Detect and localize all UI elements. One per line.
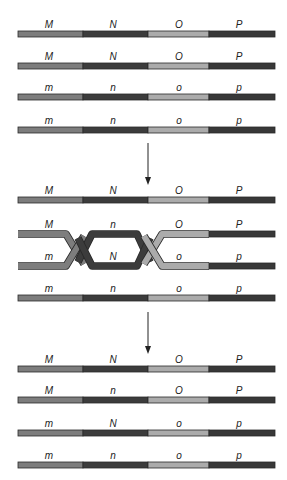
allele-label: m <box>45 283 53 294</box>
allele-label: O <box>175 185 183 196</box>
allele-label: n <box>110 82 116 93</box>
chromosome: MNOP <box>18 51 275 69</box>
segment-m <box>18 462 83 468</box>
stage-before: MNOPMNOPmnopmnop <box>18 19 275 133</box>
segment-M <box>18 366 83 372</box>
segment-M <box>18 31 83 37</box>
allele-label: N <box>109 418 117 429</box>
segment-M <box>18 63 83 69</box>
allele-label: p <box>235 450 242 461</box>
allele-label: M <box>45 185 54 196</box>
allele-label: n <box>110 385 116 396</box>
allele-label: P <box>236 219 243 230</box>
segment-P <box>209 197 275 203</box>
segment-n <box>83 94 148 100</box>
allele-label: p <box>235 251 242 262</box>
allele-label: o <box>176 450 182 461</box>
segment-N <box>83 366 148 372</box>
allele-label: n <box>110 115 116 126</box>
allele-label: m <box>45 251 53 262</box>
chromosome: MNOP <box>18 354 275 372</box>
allele-label: P <box>236 385 243 396</box>
segment-o <box>148 462 209 468</box>
segment-p <box>209 263 275 269</box>
segment-m <box>18 94 83 100</box>
segment-P <box>209 31 275 37</box>
chromosome: MnOP <box>45 219 243 230</box>
allele-label: m <box>45 82 53 93</box>
allele-label: p <box>235 82 242 93</box>
allele-label: o <box>176 82 182 93</box>
segment-o <box>148 94 209 100</box>
segment-P <box>209 366 275 372</box>
allele-label: M <box>45 354 54 365</box>
segment-n <box>83 462 148 468</box>
allele-label: o <box>176 418 182 429</box>
segment-o <box>148 430 209 436</box>
segment-N <box>83 430 148 436</box>
allele-label: p <box>235 418 242 429</box>
segment-O <box>148 397 209 403</box>
segment-n <box>83 295 148 301</box>
allele-label: p <box>235 115 242 126</box>
segment-p <box>209 94 275 100</box>
segment-o <box>148 127 209 133</box>
allele-label: M <box>45 19 54 30</box>
allele-label: n <box>110 219 116 230</box>
allele-label: N <box>109 19 117 30</box>
stage-after: MNOPMnOPmNopmnop <box>18 354 275 468</box>
segment-M <box>18 197 83 203</box>
allele-label: m <box>45 418 53 429</box>
segment-O <box>148 31 209 37</box>
allele-label: O <box>175 51 183 62</box>
chromosome: MNOP <box>18 185 275 203</box>
segment-m <box>18 127 83 133</box>
allele-label: m <box>45 115 53 126</box>
segment-p <box>209 127 275 133</box>
allele-label: n <box>110 450 116 461</box>
chromosome: mNop <box>18 418 275 436</box>
crossover-chromatids <box>18 231 275 269</box>
down-arrow-icon <box>145 143 151 185</box>
segment-p <box>209 295 275 301</box>
allele-label: M <box>45 219 54 230</box>
allele-label: N <box>109 251 117 262</box>
segment-P <box>209 231 275 237</box>
allele-label: P <box>236 185 243 196</box>
allele-label: o <box>176 283 182 294</box>
allele-label: O <box>175 219 183 230</box>
segment-m <box>18 430 83 436</box>
chromosome: MNOP <box>18 19 275 37</box>
allele-label: n <box>110 283 116 294</box>
segment-o <box>148 295 209 301</box>
allele-label: N <box>109 185 117 196</box>
allele-label: P <box>236 19 243 30</box>
chromosome-crossover-diagram: MNOPMNOPmnopmnopMNOPMnOPmNopmnopMNOPMnOP… <box>0 0 287 480</box>
allele-label: N <box>109 354 117 365</box>
segment-N <box>83 63 148 69</box>
allele-label: P <box>236 51 243 62</box>
chromosome: mnop <box>18 450 275 468</box>
segment-P <box>209 63 275 69</box>
allele-label: o <box>176 115 182 126</box>
segment-O <box>148 63 209 69</box>
segment-N <box>83 31 148 37</box>
allele-label: O <box>175 385 183 396</box>
segment-m <box>18 295 83 301</box>
allele-label: O <box>175 19 183 30</box>
allele-label: p <box>235 283 242 294</box>
allele-label: M <box>45 385 54 396</box>
chromosome: mnop <box>18 82 275 100</box>
segment-M <box>18 397 83 403</box>
allele-label: o <box>176 251 182 262</box>
down-arrow-icon <box>145 312 151 354</box>
allele-label: m <box>45 450 53 461</box>
segment-N <box>83 197 148 203</box>
segment-n <box>83 127 148 133</box>
segment-n <box>83 397 148 403</box>
segment-p <box>209 462 275 468</box>
segment-P <box>209 397 275 403</box>
segment-O <box>148 366 209 372</box>
chromosome: mnop <box>18 115 275 133</box>
allele-label: O <box>175 354 183 365</box>
